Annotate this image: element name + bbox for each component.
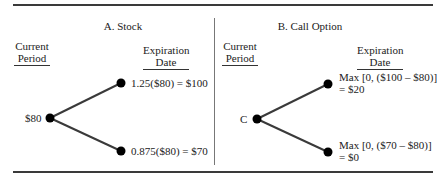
option-down-branch: [257, 119, 328, 152]
stock-down-value: 0.875($80) = $70: [131, 145, 208, 157]
option-down-result: = $0: [339, 151, 432, 163]
option-up-value: Max [0, ($100 – $80)] = $20: [339, 71, 437, 95]
panel-b-title: B. Call Option: [270, 20, 350, 32]
panel-a-title: A. Stock: [88, 20, 158, 32]
option-up-branch: [257, 84, 328, 119]
stock-down-node: [117, 147, 126, 156]
option-root-value: C: [240, 113, 247, 125]
stock-root-value: $80: [25, 112, 42, 124]
expiration-label-line1: Expiration: [357, 44, 403, 56]
stock-down-branch: [50, 118, 121, 151]
expiration-label-line2: Date: [143, 56, 189, 70]
panel-b-expiration-date-label: Expiration Date: [357, 44, 403, 70]
panel-b-current-period-label: Current Period: [222, 40, 258, 66]
stock-up-value: 1.25($80) = $100: [131, 77, 208, 89]
stock-up-node: [117, 79, 126, 88]
option-down-value: Max [0, ($70 – $80)] = $0: [339, 139, 432, 163]
current-label-line1: Current: [14, 40, 50, 52]
option-up-formula: Max [0, ($100 – $80)]: [339, 71, 437, 83]
current-label-line1: Current: [222, 40, 258, 52]
option-down-formula: Max [0, ($70 – $80)]: [339, 139, 432, 151]
stock-up-branch: [50, 83, 121, 118]
option-up-result: = $20: [339, 83, 437, 95]
panel-a-expiration-date-label: Expiration Date: [143, 44, 189, 70]
stock-root-node: [46, 114, 55, 123]
expiration-label-line2: Date: [357, 56, 403, 70]
option-down-node: [324, 148, 333, 157]
expiration-label-line1: Expiration: [143, 44, 189, 56]
option-up-node: [324, 80, 333, 89]
current-label-line2: Period: [14, 52, 50, 66]
option-root-node: [253, 115, 262, 124]
panel-a-current-period-label: Current Period: [14, 40, 50, 66]
current-label-line2: Period: [222, 52, 258, 66]
